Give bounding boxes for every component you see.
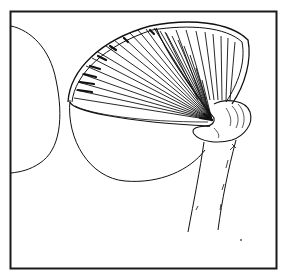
speck: [240, 239, 242, 241]
illustration-canvas: mushroom line drawing: [0, 0, 285, 279]
left-cap-outline: [11, 26, 60, 173]
mushroom-drawing: [0, 0, 285, 279]
stem-left-edge: [188, 142, 204, 232]
frame-border: [11, 12, 277, 269]
gill-lower-edge: [70, 102, 210, 126]
stem-right-edge: [218, 140, 236, 230]
gills: [74, 28, 235, 120]
annulus-shading: [214, 104, 244, 138]
